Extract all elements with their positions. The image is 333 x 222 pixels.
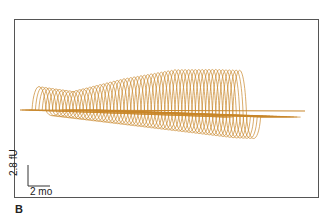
trace-group bbox=[22, 69, 301, 138]
panel-label: B bbox=[15, 203, 23, 215]
scale-bar-y-label: 2.8 fU bbox=[8, 149, 19, 176]
scale-bar-x-label: 2 mo bbox=[30, 186, 52, 197]
scale-bar bbox=[28, 165, 50, 186]
